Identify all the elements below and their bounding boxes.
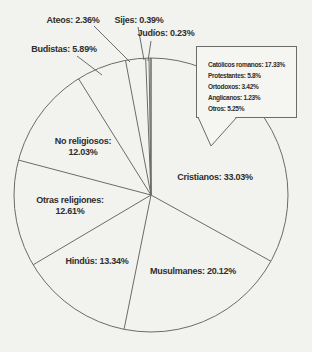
slice-label-otras-religiones: Otras religiones: 12.61% [36,195,103,216]
slice-label-line1: Otras religiones: [36,195,103,206]
slice-boundary-line [151,195,271,261]
slice-label-musulmanes: Musulmanes: 20.12% [150,266,236,277]
slice-label-hindus: Hindús: 13.34% [65,256,128,267]
callout-tail-right-edge [211,117,237,146]
leader-line-judios [148,41,151,61]
slice-boundary-line [126,60,152,195]
callout-tail-fill [198,116,237,147]
callout-entry-otros: Otros: 5.25% [208,103,296,114]
slice-label-no-religiosos: No religiosos: 12.03% [55,136,112,157]
slice-label-budistas: Budistas: 5.89% [31,44,96,55]
callout-entry-catolicos: Católicos romanos: 17.33% [208,59,296,70]
slice-label-line2: 12.03% [55,147,112,158]
slice-label-ateos: Ateos: 2.36% [46,15,99,26]
callout-entry-protestantes: Protestantes: 5.8% [208,70,296,81]
callout-entry-anglicanos: Anglicanos: 1.23% [208,92,296,103]
leader-line-ateos [94,26,130,62]
callout-entry-ortodoxos: Ortodoxos: 3.42% [208,81,296,92]
leader-line-budistas [77,56,102,75]
slice-label-line1: No religiosos: [55,136,112,147]
callout-tail-left-edge [198,117,211,146]
slice-label-judios: Judíos: 0.23% [138,28,195,39]
religion-pie-chart: Ateos: 2.36% Sijes: 0.39% Judíos: 0.23% … [0,0,312,352]
slice-boundary-line [149,58,151,195]
slice-boundary-line [146,58,151,195]
slice-label-cristianos: Cristianos: 33.03% [177,172,253,183]
callout-box: Católicos romanos: 17.33% Protestantes: … [196,46,297,118]
slice-boundary-line [19,160,151,195]
slice-label-sijes: Sijes: 0.39% [114,15,163,26]
slice-label-line2: 12.61% [36,206,103,217]
